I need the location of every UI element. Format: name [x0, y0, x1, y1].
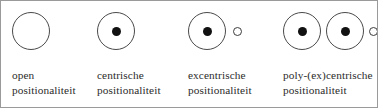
- filled-dot-icon: [298, 27, 307, 36]
- symbol-centrische: [97, 1, 183, 63]
- open-circle-icon: [97, 12, 135, 50]
- positionality-diagram: open positionaliteit centrische position…: [0, 0, 378, 108]
- filled-dot-icon: [203, 27, 212, 36]
- panel-row: open positionaliteit centrische position…: [1, 1, 377, 107]
- open-circle-icon: [12, 12, 50, 50]
- panel-poly-excentrische: poly-(ex)centrische positionaliteit: [279, 1, 377, 107]
- open-circle-icon: [188, 12, 226, 50]
- filled-dot-icon: [341, 27, 350, 36]
- satellite-circle-icon: [369, 27, 378, 36]
- open-circle-icon: [326, 12, 364, 50]
- glyph-row-open: [12, 12, 50, 50]
- glyph-row-excentrische: [188, 12, 242, 50]
- glyph-row-poly-excentrische: [283, 12, 378, 50]
- symbol-open: [12, 1, 89, 63]
- panel-centrische: centrische positionaliteit: [89, 1, 183, 107]
- filled-dot-icon: [112, 27, 121, 36]
- symbol-excentrische: [188, 1, 279, 63]
- satellite-circle-icon: [233, 27, 242, 36]
- panel-caption-excentrische: excentrische positionaliteit: [188, 63, 279, 98]
- panel-open: open positionaliteit: [1, 1, 89, 107]
- symbol-poly-excentrische: [283, 1, 377, 63]
- panel-caption-open: open positionaliteit: [12, 63, 89, 98]
- panel-excentrische: excentrische positionaliteit: [183, 1, 279, 107]
- open-circle-icon: [283, 12, 321, 50]
- panel-caption-poly-excentrische: poly-(ex)centrische positionaliteit: [283, 63, 377, 98]
- spacer: [226, 31, 233, 32]
- panel-caption-centrische: centrische positionaliteit: [97, 63, 183, 98]
- glyph-row-centrische: [97, 12, 135, 50]
